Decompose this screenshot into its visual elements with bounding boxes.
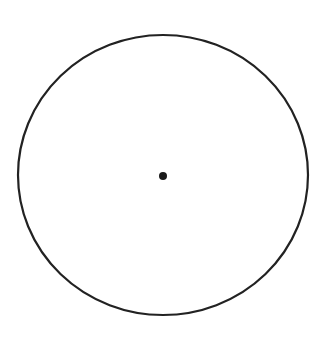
center-point bbox=[159, 172, 167, 180]
diagram-canvas bbox=[0, 0, 326, 343]
